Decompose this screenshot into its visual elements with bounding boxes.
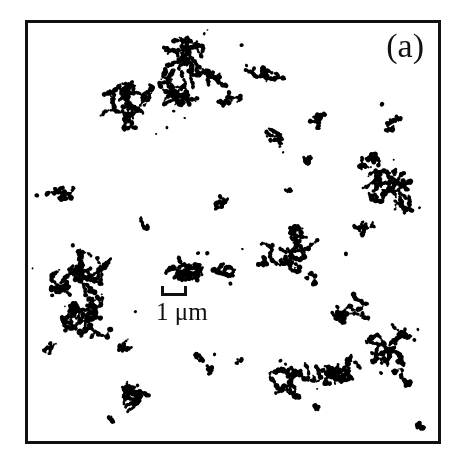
micrograph-image <box>28 23 438 441</box>
micrograph-figure: (a) 1 μm <box>0 0 461 462</box>
panel-label: (a) <box>386 29 424 63</box>
scale-bar-marker <box>161 286 187 296</box>
scale-bar-tick-right <box>184 286 187 296</box>
scale-bar: 1 μm <box>156 286 256 346</box>
scale-bar-label: 1 μm <box>156 298 208 326</box>
micrograph-panel: (a) 1 μm <box>25 20 441 444</box>
